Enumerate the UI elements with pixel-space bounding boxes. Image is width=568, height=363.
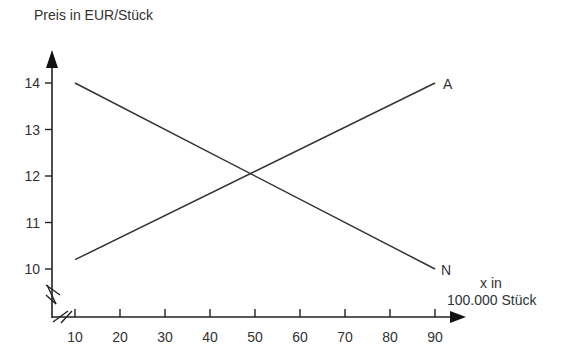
price-chart: 1020304050607080901011121314 Preis in EU… xyxy=(0,0,568,363)
x-tick-label: 90 xyxy=(427,329,443,345)
x-tick-label: 50 xyxy=(247,329,263,345)
y-tick-label: 10 xyxy=(24,261,40,277)
x-tick-label: 40 xyxy=(202,329,218,345)
series-label-n: N xyxy=(441,262,451,278)
series-lines xyxy=(75,83,435,269)
x-tick-label: 20 xyxy=(112,329,128,345)
chart-svg: 1020304050607080901011121314 Preis in EU… xyxy=(0,0,568,363)
y-tick-label: 14 xyxy=(24,75,40,91)
x-tick-label: 60 xyxy=(292,329,308,345)
x-axis-label-line1: x in xyxy=(480,275,502,291)
series-line-n xyxy=(75,83,435,269)
x-tick-label: 10 xyxy=(67,329,83,345)
x-axis-label-line2: 100.000 Stück xyxy=(447,292,538,308)
series-label-a: A xyxy=(443,76,453,92)
x-tick-label: 30 xyxy=(157,329,173,345)
y-axis-break-icon xyxy=(46,285,60,304)
x-axis-arrow-icon xyxy=(450,311,466,323)
y-tick-label: 11 xyxy=(25,215,40,231)
y-tick-label: 12 xyxy=(24,168,40,184)
x-tick-label: 80 xyxy=(382,329,398,345)
y-axis-label: Preis in EUR/Stück xyxy=(34,7,154,23)
x-tick-label: 70 xyxy=(337,329,353,345)
y-axis-arrow-icon xyxy=(46,50,58,68)
series-line-a xyxy=(75,83,435,260)
axis-ticks: 1020304050607080901011121314 xyxy=(24,75,443,345)
y-tick-label: 13 xyxy=(24,122,40,138)
